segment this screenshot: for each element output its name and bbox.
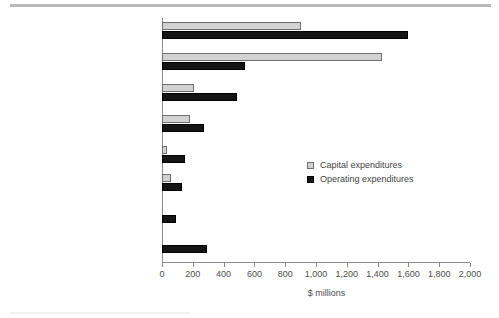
- bar-operating: [162, 93, 237, 101]
- x-tick: [224, 263, 225, 267]
- x-tick-label: 2,000: [459, 269, 482, 279]
- bar-operating: [162, 215, 176, 223]
- bar-operating: [162, 62, 245, 70]
- x-tick-label: 800: [278, 269, 293, 279]
- bar-operating: [162, 155, 185, 163]
- legend-swatch-capital-icon: [307, 162, 314, 169]
- x-tick-label: 1,200: [336, 269, 359, 279]
- x-tick: [439, 263, 440, 267]
- bar-capital: [162, 174, 171, 182]
- legend-label-capital: Capital expenditures: [320, 160, 402, 170]
- x-tick-label: 600: [247, 269, 262, 279]
- bar-operating: [162, 183, 182, 191]
- x-tick-label: 1,600: [397, 269, 420, 279]
- x-tick: [316, 263, 317, 267]
- legend-swatch-operating-icon: [307, 176, 314, 183]
- x-tick: [193, 263, 194, 267]
- x-tick-label: 400: [216, 269, 231, 279]
- bar-capital: [162, 22, 301, 30]
- bar-operating: [162, 124, 204, 132]
- bottom-divider: [10, 312, 190, 314]
- x-tick-label: 0: [159, 269, 164, 279]
- chart-legend: Capital expenditures Operating expenditu…: [307, 158, 414, 186]
- bar-capital: [162, 115, 190, 123]
- x-axis-title: $ millions: [0, 288, 499, 298]
- x-tick: [347, 263, 348, 267]
- x-tick-label: 1,800: [428, 269, 451, 279]
- x-tick-label: 1,000: [305, 269, 328, 279]
- bar-operating: [162, 31, 408, 39]
- bar-capital: [162, 53, 382, 61]
- x-tick: [285, 263, 286, 267]
- x-tick: [254, 263, 255, 267]
- legend-item-capital: Capital expenditures: [307, 158, 414, 172]
- x-tick: [378, 263, 379, 267]
- x-axis-title-text: $ millions: [308, 288, 346, 298]
- legend-label-operating: Operating expenditures: [320, 174, 414, 184]
- x-tick: [162, 263, 163, 267]
- bar-capital: [162, 84, 194, 92]
- x-tick-label: 1,400: [366, 269, 389, 279]
- x-tick: [408, 263, 409, 267]
- chart-figure: 02004006008001,0001,2001,4001,6001,8002,…: [0, 0, 499, 318]
- x-tick: [470, 263, 471, 267]
- top-divider: [10, 4, 491, 7]
- bar-operating: [162, 245, 207, 253]
- bar-capital: [162, 146, 167, 154]
- legend-item-operating: Operating expenditures: [307, 172, 414, 186]
- x-tick-label: 200: [185, 269, 200, 279]
